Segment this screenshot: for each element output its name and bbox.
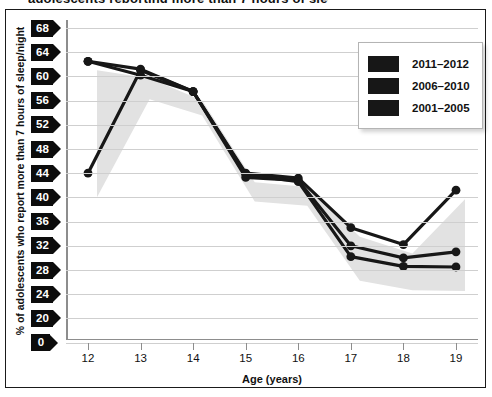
y-tick-label: 20 xyxy=(31,310,53,327)
y-tick-label: 64 xyxy=(31,44,53,61)
legend-item-3: 2001–2005 xyxy=(368,98,470,117)
legend-label: 2006–2010 xyxy=(412,80,470,92)
tick-arrow-icon xyxy=(53,310,61,326)
tick-arrow-icon xyxy=(53,68,61,84)
x-tick-mark xyxy=(88,343,89,350)
legend-label: 2011–2012 xyxy=(412,58,469,70)
x-tick-label-15: 15 xyxy=(239,352,252,364)
gridline xyxy=(66,246,478,247)
y-tick-64: 64 xyxy=(31,44,61,61)
y-tick-label: 36 xyxy=(31,213,53,230)
y-tick-0: 0 xyxy=(31,334,58,351)
tick-arrow-icon xyxy=(53,20,61,36)
x-tick-mark xyxy=(246,343,247,350)
gridline xyxy=(66,173,478,174)
y-tick-label: 48 xyxy=(31,141,53,158)
y-tick-44: 44 xyxy=(31,165,61,182)
x-tick-mark xyxy=(298,343,299,350)
legend-label: 2001–2005 xyxy=(412,102,470,114)
legend-swatch xyxy=(368,56,399,72)
y-tick-label: 68 xyxy=(31,20,53,37)
x-tick-mark xyxy=(456,343,457,350)
data-point xyxy=(136,66,145,75)
y-tick-label: 28 xyxy=(31,262,53,279)
x-tick-mark xyxy=(351,343,352,350)
y-tick-label: 52 xyxy=(31,116,53,133)
tick-arrow-icon xyxy=(53,238,61,254)
y-tick-32: 32 xyxy=(31,237,61,254)
tick-arrow-icon xyxy=(53,44,61,60)
y-axis-label: % of adolescents who report more than 7 … xyxy=(14,1,26,361)
y-tick-52: 52 xyxy=(31,116,61,133)
gridline xyxy=(66,149,478,150)
data-point xyxy=(399,240,408,249)
y-tick-20: 20 xyxy=(31,310,61,327)
tick-arrow-icon xyxy=(53,93,61,109)
data-point xyxy=(399,254,408,263)
gridline xyxy=(66,294,478,295)
gridline xyxy=(66,222,478,223)
gridline xyxy=(66,197,478,198)
data-point xyxy=(241,170,250,179)
y-tick-label: 44 xyxy=(31,165,53,182)
y-tick-label: 40 xyxy=(31,189,53,206)
tick-arrow-icon xyxy=(53,141,61,157)
x-tick-label-12: 12 xyxy=(82,352,95,364)
y-tick-60: 60 xyxy=(31,68,61,85)
chart-title-fragment: adolescents reporting more than 7 hours … xyxy=(28,0,328,3)
y-tick-label: 0 xyxy=(31,334,50,351)
x-axis-label: Age (years) xyxy=(66,373,478,385)
gridline xyxy=(66,318,478,319)
x-tick-mark xyxy=(193,343,194,350)
x-tick-mark xyxy=(403,343,404,350)
x-tick-label-19: 19 xyxy=(450,352,463,364)
legend-swatch xyxy=(368,78,399,94)
tick-arrow-icon xyxy=(53,214,61,230)
data-point xyxy=(346,252,355,261)
y-tick-label: 32 xyxy=(31,237,53,254)
tick-arrow-icon xyxy=(50,335,58,351)
tick-arrow-icon xyxy=(53,165,61,181)
data-point xyxy=(452,186,461,195)
x-tick-mark xyxy=(141,343,142,350)
tick-arrow-icon xyxy=(53,189,61,205)
y-tick-24: 24 xyxy=(31,286,61,303)
y-tick-36: 36 xyxy=(31,213,61,230)
y-tick-40: 40 xyxy=(31,189,61,206)
chart-figure: adolescents reporting more than 7 hours … xyxy=(0,0,492,397)
y-tick-label: 24 xyxy=(31,286,53,303)
x-tick-label-14: 14 xyxy=(187,352,200,364)
legend-item-1: 2011–2012 xyxy=(368,54,470,73)
y-tick-48: 48 xyxy=(31,141,61,158)
gridline xyxy=(66,270,478,271)
data-point xyxy=(189,87,198,96)
y-tick-56: 56 xyxy=(31,92,61,109)
tick-arrow-icon xyxy=(53,262,61,278)
y-tick-28: 28 xyxy=(31,262,61,279)
y-tick-label: 56 xyxy=(31,92,53,109)
x-tick-label-18: 18 xyxy=(397,352,410,364)
y-tick-label: 60 xyxy=(31,68,53,85)
tick-arrow-icon xyxy=(53,286,61,302)
data-point xyxy=(294,177,303,186)
tick-arrow-icon xyxy=(53,117,61,133)
data-point xyxy=(452,247,461,256)
gridline-baseline xyxy=(66,343,478,344)
x-tick-label-16: 16 xyxy=(292,352,305,364)
y-tick-68: 68 xyxy=(31,20,61,37)
data-point xyxy=(346,223,355,232)
legend-item-2: 2006–2010 xyxy=(368,76,470,95)
chart-legend: 2011–20122006–20102001–2005 xyxy=(358,42,483,129)
x-tick-label-13: 13 xyxy=(134,352,147,364)
gridline xyxy=(66,28,478,29)
x-tick-label-17: 17 xyxy=(344,352,357,364)
legend-swatch xyxy=(368,100,399,116)
data-point xyxy=(84,57,93,66)
